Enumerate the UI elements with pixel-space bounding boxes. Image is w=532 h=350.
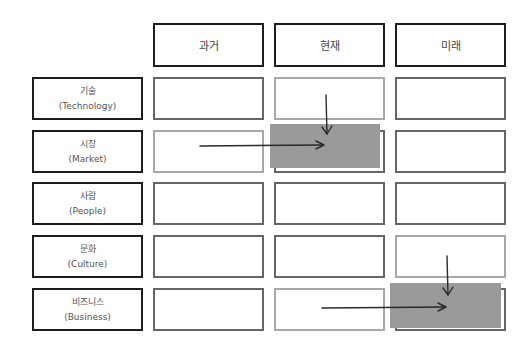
row-label-culture: 문화 (Culture): [32, 235, 143, 278]
row-label-ko: 기술: [80, 84, 96, 99]
cell-people-present: [274, 182, 385, 225]
cell-business-present: [274, 288, 385, 331]
highlight-market-present: [270, 124, 380, 168]
row-label-business: 비즈니스 (Business): [32, 288, 143, 331]
cell-business-past: [153, 288, 264, 331]
column-header-label: 과거: [199, 37, 219, 53]
cell-culture-future: [395, 235, 506, 278]
row-label-market: 시장 (Market): [32, 130, 143, 173]
cell-market-future: [395, 130, 506, 173]
cell-people-past: [153, 182, 264, 225]
cell-technology-present: [274, 77, 385, 120]
cell-market-past: [153, 130, 264, 173]
cell-culture-past: [153, 235, 264, 278]
row-label-people: 사람 (People): [32, 182, 143, 225]
row-label-en: (Business): [64, 310, 111, 325]
column-header-label: 미래: [441, 37, 461, 53]
row-label-en: (Market): [69, 152, 107, 167]
cell-culture-present: [274, 235, 385, 278]
cell-people-future: [395, 182, 506, 225]
row-label-en: (Technology): [59, 99, 116, 114]
row-label-ko: 비즈니스: [72, 295, 104, 310]
row-label-en: (People): [69, 204, 106, 219]
row-label-en: (Culture): [68, 257, 108, 272]
row-label-ko: 시장: [80, 137, 96, 152]
column-header-label: 현재: [320, 37, 340, 53]
row-label-technology: 기술 (Technology): [32, 77, 143, 120]
column-header-present: 현재: [274, 23, 385, 67]
cell-technology-past: [153, 77, 264, 120]
cell-technology-future: [395, 77, 506, 120]
highlight-business-future: [390, 283, 501, 328]
column-header-future: 미래: [395, 23, 506, 67]
row-label-ko: 문화: [80, 242, 96, 257]
row-label-ko: 사람: [80, 189, 96, 204]
column-header-past: 과거: [153, 23, 264, 67]
